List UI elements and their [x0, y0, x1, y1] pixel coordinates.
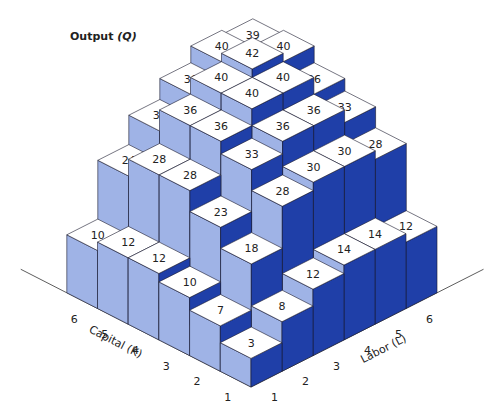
- bar-value-label: 36: [307, 104, 321, 117]
- bar-value-label: 40: [214, 71, 228, 84]
- production-3d-bar-chart: 3940403642363340403128364036241230363628…: [0, 0, 502, 412]
- bar-value-label: 30: [338, 145, 352, 158]
- bar-value-label: 10: [183, 276, 197, 289]
- capital-axis-title: Capital (K): [87, 323, 144, 361]
- bar-value-label: 12: [152, 252, 166, 265]
- bar-value-label: 18: [245, 242, 259, 255]
- bar-value-label: 36: [214, 120, 228, 133]
- capital-tick-label: 6: [71, 313, 78, 326]
- bar-value-label: 12: [121, 236, 135, 249]
- bar-value-label: 14: [368, 228, 382, 241]
- bar-value-label: 28: [183, 169, 197, 182]
- bar-value-label: 33: [245, 148, 259, 161]
- bar-value-label: 36: [276, 120, 290, 133]
- bar-value-label: 3: [248, 337, 255, 350]
- bar-value-label: 42: [245, 47, 259, 60]
- capital-tick-label: 1: [224, 391, 231, 404]
- labor-tick-label: 3: [333, 360, 340, 373]
- bar-value-label: 8: [279, 300, 286, 313]
- bar-value-label: 12: [306, 268, 320, 281]
- bar-value-label: 30: [307, 161, 321, 174]
- labor-tick-label: 2: [302, 375, 309, 388]
- bar-value-label: 23: [214, 206, 228, 219]
- labor-tick-label: 1: [271, 391, 278, 404]
- bar-grid: 3940403642363340403128364036241230363628…: [67, 19, 437, 387]
- bar-value-label: 28: [276, 185, 290, 198]
- capital-tick-label: 3: [163, 360, 170, 373]
- bar-value-label: 36: [183, 104, 197, 117]
- bar-value-label: 7: [217, 304, 224, 317]
- capital-tick-label: 2: [193, 375, 200, 388]
- bar-value-label: 40: [245, 87, 259, 100]
- bar-value-label: 28: [152, 153, 166, 166]
- labor-tick-label: 6: [426, 313, 433, 326]
- bar-value-label: 40: [276, 71, 290, 84]
- bar-value-label: 14: [337, 243, 351, 256]
